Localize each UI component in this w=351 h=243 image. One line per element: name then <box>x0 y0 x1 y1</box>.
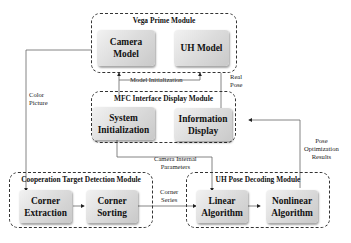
linear-algorithm-box: LinearAlgorithm <box>196 190 248 223</box>
label-line: Real <box>230 73 242 81</box>
label-line: Picture <box>29 99 48 107</box>
corner-series-label: Corner Series <box>160 188 178 204</box>
box-label: Model <box>110 48 142 60</box>
box-label: Nonlinear <box>271 195 313 207</box>
box-label: Linear <box>201 195 243 207</box>
box-label: Extraction <box>24 207 67 219</box>
box-label: Display <box>179 125 228 137</box>
pose-optimization-results-label: Pose Optimization Results <box>304 137 339 161</box>
box-label: Information <box>179 113 228 125</box>
box-label: Sorting <box>97 207 127 219</box>
label-line: Color <box>29 91 48 99</box>
label-line: Camera Internal <box>154 155 197 163</box>
module-title: Vega Prime Module <box>92 16 236 25</box>
model-initialization-label: Model Initialization <box>130 76 183 84</box>
box-label: Algorithm <box>271 207 313 219</box>
box-label: Corner <box>97 195 127 207</box>
box-label: Camera <box>110 36 142 48</box>
box-label: System <box>98 112 150 124</box>
corner-extraction-box: CornerExtraction <box>19 190 72 223</box>
system-initialization-box: SystemInitialization <box>92 107 155 140</box>
label-line: Corner <box>160 188 178 196</box>
color-picture-label: Color Picture <box>29 91 48 107</box>
real-pose-label: Real Pose <box>230 73 242 89</box>
box-label: Corner <box>24 195 67 207</box>
label-line: Results <box>304 153 339 161</box>
box-label: UH Model <box>181 42 223 54</box>
nonlinear-algorithm-box: NonlinearAlgorithm <box>266 190 318 223</box>
camera-model-box: CameraModel <box>97 30 155 66</box>
label-line: Parameters <box>154 163 197 171</box>
box-label: Algorithm <box>201 207 243 219</box>
camera-internal-parameters-label: Camera Internal Parameters <box>154 155 197 171</box>
label-line: Pose <box>304 137 339 145</box>
label-line: Pose <box>230 81 242 89</box>
module-title: Cooperation Target Detection Module <box>10 175 152 184</box>
uh-model-box: UH Model <box>174 30 229 66</box>
label-line: Series <box>160 196 178 204</box>
information-display-box: InformationDisplay <box>174 108 232 141</box>
module-title: MFC Interface Display Module <box>92 94 235 103</box>
label-line: Optimization <box>304 145 339 153</box>
box-label: Initialization <box>98 124 150 136</box>
corner-sorting-box: CornerSorting <box>86 190 138 223</box>
module-title: UH Pose Decoding Module <box>187 175 329 184</box>
